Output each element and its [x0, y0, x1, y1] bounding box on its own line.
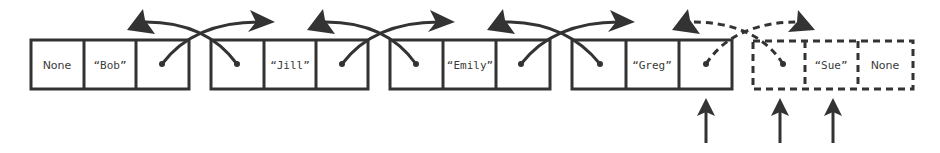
link-jill-emily — [307, 9, 455, 64]
prev-arrow-dashed — [685, 22, 783, 64]
node-sue: “Sue” None — [753, 41, 913, 89]
node-bob: None “Bob” — [31, 40, 189, 89]
next-arrow — [162, 22, 265, 64]
linked-list-diagram: None “Bob” “Jill” “Emily” “Greg” “Sue” — [0, 0, 940, 153]
node-jill: “Jill” — [211, 40, 368, 89]
next-none-label: None — [871, 59, 900, 72]
node-value-emily: “Emily” — [447, 59, 493, 72]
pointer-arrows — [697, 98, 842, 143]
node-value-greg: “Greg” — [632, 59, 672, 72]
node-value-sue: “Sue” — [814, 59, 847, 72]
pointer-arrow-sue-value — [824, 98, 842, 143]
link-greg-sue — [672, 9, 815, 64]
link-bob-jill — [127, 9, 275, 64]
node-emily: “Emily” — [390, 40, 550, 89]
node-value-jill: “Jill” — [270, 59, 310, 72]
next-arrow-dashed — [706, 22, 805, 64]
node-value-bob: “Bob” — [93, 59, 126, 72]
node-greg: “Greg” — [572, 40, 732, 89]
pointer-arrow-greg-next — [697, 98, 715, 143]
prev-none-label: None — [43, 59, 72, 72]
pointer-arrow-sue-prev — [771, 98, 789, 143]
link-emily-greg — [487, 9, 635, 64]
